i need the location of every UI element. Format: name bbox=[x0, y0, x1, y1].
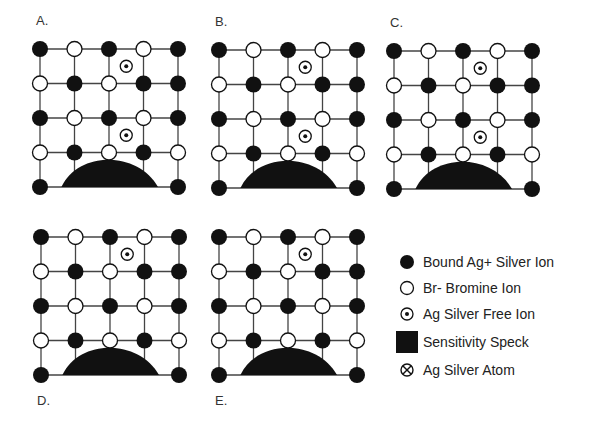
bromine-ion bbox=[281, 146, 296, 161]
bound-silver-ion bbox=[524, 43, 540, 59]
bound-silver-ion bbox=[421, 147, 437, 163]
bound-silver-ion bbox=[315, 146, 331, 162]
open-circle-icon bbox=[396, 277, 418, 299]
bromine-ion bbox=[136, 111, 151, 126]
bromine-ion bbox=[421, 44, 436, 59]
bromine-ion bbox=[456, 78, 471, 93]
bromine-ion bbox=[246, 299, 261, 314]
lattice-panel-c bbox=[386, 43, 540, 197]
bromine-ion bbox=[212, 146, 227, 161]
crossed-circle-icon bbox=[396, 359, 418, 381]
bound-silver-ion bbox=[349, 367, 365, 383]
bound-silver-ion bbox=[101, 41, 117, 57]
bromine-ion bbox=[387, 78, 402, 93]
bromine-ion bbox=[212, 333, 227, 348]
lattice-panel-b bbox=[211, 42, 365, 196]
bound-silver-ion bbox=[315, 264, 331, 280]
bound-silver-ion bbox=[315, 333, 331, 349]
bromine-ion bbox=[171, 145, 186, 160]
bromine-ion bbox=[67, 42, 82, 57]
bromine-ion bbox=[350, 333, 365, 348]
bound-silver-ion bbox=[67, 145, 83, 161]
lattice-panel-a bbox=[32, 41, 186, 195]
bound-silver-ion bbox=[386, 181, 402, 197]
legend-item-sensitivity-speck: Sensitivity Speck bbox=[396, 330, 529, 354]
bound-silver-ion bbox=[211, 42, 227, 58]
bound-silver-ion bbox=[102, 229, 118, 245]
bromine-ion bbox=[212, 77, 227, 92]
bromine-ion bbox=[102, 145, 117, 160]
bromine-ion bbox=[490, 44, 505, 59]
free-silver-ion bbox=[299, 61, 311, 73]
bound-silver-ion bbox=[170, 76, 186, 92]
bound-silver-ion bbox=[136, 76, 152, 92]
dotted-circle-icon bbox=[396, 303, 418, 325]
bound-silver-ion bbox=[421, 78, 437, 94]
bromine-ion bbox=[136, 42, 151, 57]
bromine-ion bbox=[103, 333, 118, 348]
bound-silver-ion bbox=[102, 298, 118, 314]
bromine-ion bbox=[246, 43, 261, 58]
bromine-ion bbox=[212, 264, 227, 279]
bound-silver-ion bbox=[171, 367, 187, 383]
bound-silver-ion bbox=[349, 111, 365, 127]
bound-silver-ion bbox=[101, 110, 117, 126]
bound-silver-ion bbox=[32, 179, 48, 195]
bromine-ion bbox=[67, 111, 82, 126]
bromine-ion bbox=[137, 230, 152, 245]
bromine-ion bbox=[315, 230, 330, 245]
free-silver-ion bbox=[474, 62, 486, 74]
bromine-ion bbox=[246, 230, 261, 245]
bound-silver-ion bbox=[68, 264, 84, 280]
panel-label: D. bbox=[37, 393, 50, 408]
bound-silver-ion bbox=[386, 43, 402, 59]
free-silver-ion bbox=[120, 129, 132, 141]
lattice-panel-d bbox=[33, 229, 187, 383]
legend-item-bound-silver-ion: Bound Ag+ Silver Ion bbox=[396, 250, 554, 274]
bromine-ion bbox=[33, 76, 48, 91]
bound-silver-ion bbox=[137, 333, 153, 349]
bromine-ion bbox=[525, 147, 540, 162]
bound-silver-ion bbox=[386, 112, 402, 128]
bound-silver-ion bbox=[490, 147, 506, 163]
bound-silver-ion bbox=[68, 333, 84, 349]
bound-silver-ion bbox=[349, 77, 365, 93]
legend-item-silver-atom: Ag Silver Atom bbox=[396, 358, 515, 382]
free-silver-ion bbox=[299, 248, 311, 260]
bound-silver-ion bbox=[170, 179, 186, 195]
bromine-ion bbox=[281, 77, 296, 92]
bound-silver-ion bbox=[455, 112, 471, 128]
bound-silver-ion bbox=[315, 77, 331, 93]
bound-silver-ion bbox=[280, 229, 296, 245]
bromine-ion bbox=[281, 264, 296, 279]
bound-silver-ion bbox=[33, 229, 49, 245]
bound-silver-ion bbox=[171, 229, 187, 245]
bound-silver-ion bbox=[349, 229, 365, 245]
free-silver-ion bbox=[121, 248, 133, 260]
bound-silver-ion bbox=[32, 41, 48, 57]
bromine-ion bbox=[315, 43, 330, 58]
bound-silver-ion bbox=[349, 180, 365, 196]
bromine-ion bbox=[350, 146, 365, 161]
bromine-ion bbox=[103, 264, 118, 279]
bound-silver-ion bbox=[280, 42, 296, 58]
bound-silver-ion bbox=[136, 145, 152, 161]
free-silver-ion bbox=[299, 130, 311, 142]
bound-silver-ion bbox=[246, 264, 262, 280]
bound-silver-ion bbox=[170, 110, 186, 126]
panel-label: A. bbox=[36, 13, 48, 28]
bound-silver-ion bbox=[171, 264, 187, 280]
bound-silver-ion bbox=[524, 78, 540, 94]
free-silver-ion bbox=[474, 131, 486, 143]
bound-silver-ion bbox=[349, 264, 365, 280]
bound-silver-ion bbox=[211, 111, 227, 127]
bound-silver-ion bbox=[211, 298, 227, 314]
bound-silver-ion bbox=[246, 333, 262, 349]
bromine-ion bbox=[387, 147, 402, 162]
bromine-ion bbox=[34, 264, 49, 279]
bromine-ion bbox=[172, 333, 187, 348]
bound-silver-ion bbox=[33, 367, 49, 383]
bromine-ion bbox=[34, 333, 49, 348]
bromine-ion bbox=[421, 113, 436, 128]
bromine-ion bbox=[33, 145, 48, 160]
